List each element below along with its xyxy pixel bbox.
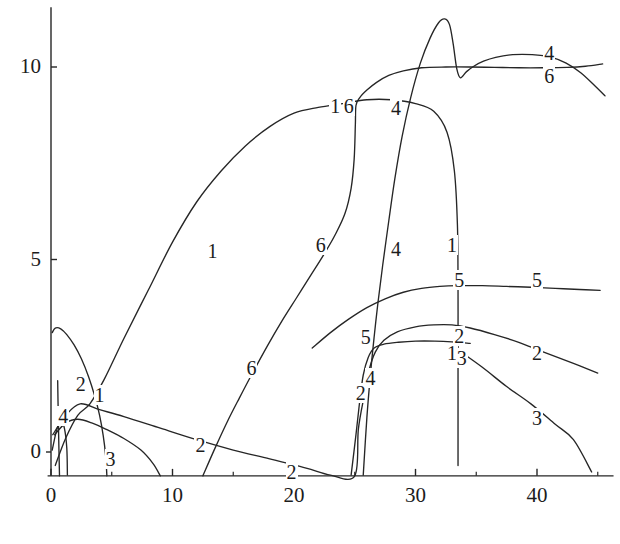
curve-label-4: 4 [543, 43, 555, 63]
curve-1 [55, 99, 458, 465]
curve-label-6: 6 [245, 358, 257, 378]
curve-label-5: 5 [453, 270, 465, 290]
curve-label-4: 4 [365, 368, 377, 388]
curves-group [52, 19, 605, 480]
curve-label-1: 1 [446, 235, 458, 255]
curve-label-1: 1 [329, 96, 341, 116]
curve-label-5: 5 [360, 327, 372, 347]
y-tick-label-10: 10 [13, 56, 41, 77]
x-tick-label-0: 0 [31, 485, 71, 506]
x-tick-label-20: 20 [274, 485, 314, 506]
curve-label-4: 4 [390, 239, 402, 259]
curve-label-5: 5 [531, 270, 543, 290]
curve-label-1: 1 [207, 241, 219, 261]
x-tick-label-30: 30 [396, 485, 436, 506]
curve-label-3: 3 [456, 348, 468, 368]
curve-label-4: 4 [390, 98, 402, 118]
curve-2 [53, 325, 598, 480]
curve-label-2: 2 [453, 326, 465, 346]
curve-label-1: 1 [94, 385, 106, 405]
curve-label-4: 4 [57, 406, 69, 426]
curve-label-6: 6 [315, 235, 327, 255]
curve-label-6: 6 [543, 66, 555, 86]
axes-group [46, 7, 614, 476]
x-tick-label-10: 10 [153, 485, 193, 506]
curve-3-seg2 [458, 350, 592, 472]
curve-label-6: 6 [343, 96, 355, 116]
curve-label-2: 2 [531, 343, 543, 363]
plot-canvas [0, 0, 620, 544]
y-tick-label-5: 5 [13, 249, 41, 270]
curve-label-3: 3 [105, 449, 117, 469]
curve-label-2: 2 [75, 374, 87, 394]
curve-label-2: 2 [286, 462, 298, 482]
x-tick-label-40: 40 [517, 485, 557, 506]
y-tick-label-0: 0 [13, 441, 41, 462]
chart-figure: 0510010203040 11111222222333444445556666 [0, 0, 620, 544]
curve-label-3: 3 [531, 408, 543, 428]
curve-label-2: 2 [194, 435, 206, 455]
